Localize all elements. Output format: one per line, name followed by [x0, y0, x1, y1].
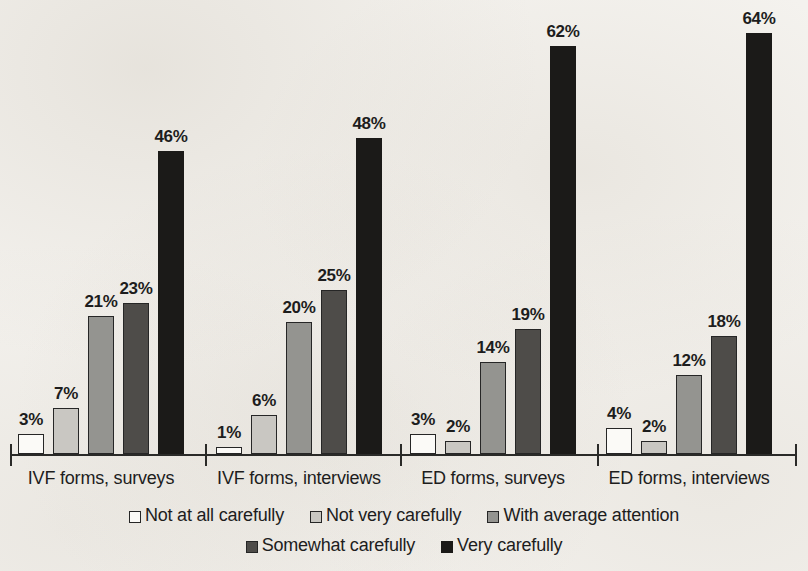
- bar-value-label: 18%: [707, 312, 740, 332]
- bar-4-4: [711, 336, 737, 454]
- bar-1-4: [123, 303, 149, 454]
- legend-item-not-at-all-carefully[interactable]: Not at all carefully: [129, 505, 284, 526]
- bar-value-label: 6%: [252, 391, 276, 411]
- legend-row-secondary: Somewhat carefullyVery carefully: [0, 535, 808, 556]
- legend-swatch-icon: [246, 541, 258, 553]
- legend-swatch-icon: [487, 511, 499, 523]
- bar-chart: 3%7%21%23%46%IVF forms, surveys1%6%20%25…: [0, 0, 808, 571]
- bar-value-label: 12%: [672, 351, 705, 371]
- legend-label: Somewhat carefully: [262, 535, 415, 556]
- axis-tick: [10, 444, 12, 466]
- bar-value-label: 20%: [282, 298, 315, 318]
- bar-1-2: [53, 408, 79, 454]
- axis-tick: [597, 444, 599, 466]
- bar-4-1: [606, 428, 632, 454]
- bar-value-label: 2%: [642, 417, 666, 437]
- bar-value-label: 46%: [154, 127, 187, 147]
- legend-row-primary: Not at all carefullyNot very carefullyWi…: [0, 505, 808, 526]
- legend-label: Very carefully: [457, 535, 562, 556]
- plot-area: 3%7%21%23%46%IVF forms, surveys1%6%20%25…: [0, 0, 808, 571]
- legend-label: With average attention: [503, 505, 679, 526]
- bar-2-2: [251, 415, 277, 454]
- bar-1-3: [88, 316, 114, 454]
- bar-value-label: 7%: [54, 384, 78, 404]
- legend-item-somewhat-carefully[interactable]: Somewhat carefully: [246, 535, 415, 556]
- bar-value-label: 64%: [742, 9, 775, 29]
- bar-value-label: 25%: [317, 266, 350, 286]
- bar-2-1: [216, 447, 242, 454]
- bar-2-5: [356, 138, 382, 454]
- legend-swatch-icon: [441, 541, 453, 553]
- bar-value-label: 23%: [119, 279, 152, 299]
- category-label-4: ED forms, interviews: [608, 468, 769, 489]
- bar-2-3: [286, 322, 312, 454]
- bar-value-label: 19%: [511, 305, 544, 325]
- legend-swatch-icon: [310, 511, 322, 523]
- legend-item-very-carefully[interactable]: Very carefully: [441, 535, 562, 556]
- bar-4-2: [641, 441, 667, 454]
- bar-value-label: 1%: [217, 423, 241, 443]
- bar-value-label: 48%: [352, 114, 385, 134]
- bar-1-5: [158, 151, 184, 454]
- bar-value-label: 14%: [476, 338, 509, 358]
- bar-4-3: [676, 375, 702, 454]
- category-label-2: IVF forms, interviews: [217, 468, 381, 489]
- bar-2-4: [321, 290, 347, 455]
- bar-value-label: 3%: [411, 410, 435, 430]
- bar-value-label: 3%: [19, 410, 43, 430]
- legend-label: Not at all carefully: [145, 505, 284, 526]
- bar-3-4: [515, 329, 541, 454]
- bar-3-1: [410, 434, 436, 454]
- bar-value-label: 21%: [84, 292, 117, 312]
- legend-item-not-very-carefully[interactable]: Not very carefully: [310, 505, 461, 526]
- legend-label: Not very carefully: [326, 505, 461, 526]
- x-axis-baseline: [10, 454, 796, 456]
- category-label-3: ED forms, surveys: [421, 468, 565, 489]
- bar-3-5: [550, 46, 576, 454]
- bar-3-2: [445, 441, 471, 454]
- legend-item-with-average-attention[interactable]: With average attention: [487, 505, 679, 526]
- axis-tick: [795, 444, 797, 466]
- category-label-1: IVF forms, surveys: [28, 468, 174, 489]
- bar-value-label: 62%: [546, 22, 579, 42]
- axis-tick: [205, 444, 207, 466]
- bar-4-5: [746, 33, 772, 454]
- axis-tick: [400, 444, 402, 466]
- bar-value-label: 2%: [446, 417, 470, 437]
- bar-1-1: [18, 434, 44, 454]
- bar-value-label: 4%: [607, 404, 631, 424]
- bar-3-3: [480, 362, 506, 454]
- legend-swatch-icon: [129, 511, 141, 523]
